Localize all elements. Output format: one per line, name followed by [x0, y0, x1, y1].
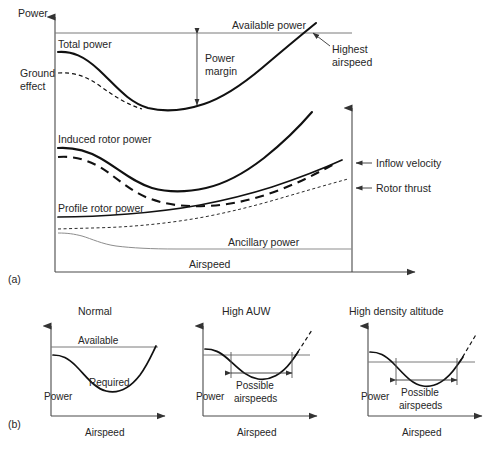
ancillary-power-label: Ancillary power [228, 236, 300, 248]
chart-high-density-span-label-line1: Possible [401, 387, 439, 398]
chart-high-auw-y-label: Power [196, 391, 225, 402]
chart-normal-available-label: Available [78, 335, 119, 346]
chart-normal-required-label: Required [89, 377, 130, 388]
highest-airspeed-leader [313, 33, 330, 46]
highest-airspeed-label-line1: Highest [332, 43, 368, 55]
power-margin-label-line1: Power [205, 52, 235, 64]
chart-high-auw-required-curve [205, 349, 298, 379]
chart-high-density-x-label: Airspeed [402, 427, 441, 438]
inflow-velocity-label: Inflow velocity [376, 157, 442, 169]
chart-normal-y-label: Power [44, 391, 73, 402]
chart-high-auw-span-label-line2: airspeeds [234, 393, 277, 404]
inflow-velocity-curve [58, 157, 336, 206]
chart-high-density-required-curve [370, 352, 463, 386]
figure-svg: Power Airspeed (a) Available power Total… [0, 0, 496, 455]
panel-a: Power Airspeed (a) Available power Total… [8, 7, 442, 285]
power-curve-figure: Power Airspeed (a) Available power Total… [0, 0, 496, 455]
ground-effect-label-line2: effect [20, 80, 46, 92]
rotor-thrust-label: Rotor thrust [376, 182, 431, 194]
induced-rotor-power-curve [58, 112, 312, 191]
induced-rotor-power-label: Induced rotor power [58, 133, 152, 145]
chart-normal-title: Normal [78, 305, 112, 317]
panel-b-tag: (b) [8, 418, 21, 430]
panel-b-chart-high-density-altitude: High density altitude Power Airspeed Pos… [349, 305, 482, 438]
total-power-label: Total power [58, 38, 112, 50]
profile-rotor-power-label: Profile rotor power [58, 202, 144, 214]
chart-high-density-title: High density altitude [349, 305, 444, 317]
panel-a-tag: (a) [8, 273, 21, 285]
panel-b: (b) Normal Power Airspeed Available Requ… [8, 305, 482, 438]
ancillary-power-curve [58, 233, 352, 249]
chart-high-auw-span-label-line1: Possible [236, 380, 274, 391]
chart-high-auw-title: High AUW [222, 305, 271, 317]
ground-effect-curve [58, 73, 142, 109]
panel-a-y-axis-label: Power [18, 7, 48, 19]
total-power-curve [58, 23, 316, 111]
chart-normal-x-label: Airspeed [85, 427, 124, 438]
panel-a-x-axis-label: Airspeed [189, 258, 231, 270]
chart-high-density-span-label-line2: airspeeds [399, 400, 442, 411]
chart-high-density-y-label: Power [361, 391, 390, 402]
ground-effect-label-line1: Ground [20, 67, 55, 79]
power-margin-label-line2: margin [205, 65, 237, 77]
available-power-label: Available power [232, 19, 306, 31]
chart-high-auw-x-label: Airspeed [237, 427, 276, 438]
highest-airspeed-label-line2: airspeed [332, 56, 372, 68]
panel-b-chart-high-auw: High AUW Power Airspeed Possible airspee… [196, 305, 317, 438]
panel-b-chart-normal: Normal Power Airspeed Available Required [44, 305, 165, 438]
